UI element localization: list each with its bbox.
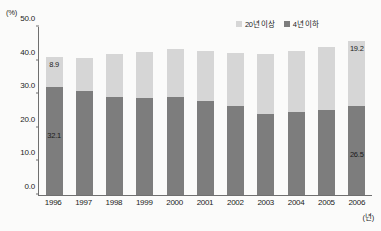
bar-segment-4y-or-less — [227, 106, 244, 195]
bar-segment-20y-or-more — [106, 54, 123, 97]
y-axis-tick-label: 30.0 — [20, 81, 35, 90]
y-axis-tick-label: 0.0 — [24, 182, 35, 191]
bar-segment-20y-or-more — [136, 52, 153, 98]
x-axis-ticks: 1996199719981999200020012002200320042005… — [38, 198, 372, 212]
bar-group — [167, 27, 184, 195]
stacked-bar-chart: (%) 20년 이상4년 이하 0.010.020.030.040.050.0 … — [0, 0, 381, 231]
bar-segment-4y-or-less: 26.5 — [348, 106, 365, 195]
y-axis-tick-label: 50.0 — [20, 14, 35, 23]
x-axis-tick-label: 2006 — [348, 198, 365, 212]
bar-segment-4y-or-less — [106, 97, 123, 195]
x-axis-tick-label: 1998 — [105, 198, 122, 212]
bar-segment-4y-or-less: 32.1 — [46, 87, 63, 195]
bar-group — [288, 27, 305, 195]
bar-group — [76, 27, 93, 195]
bar-group: 19.226.5 — [348, 27, 365, 195]
bar-value-label: 32.1 — [47, 131, 61, 140]
bar-group — [227, 27, 244, 195]
bar-segment-20y-or-more — [227, 53, 244, 106]
bar-segment-20y-or-more — [197, 51, 214, 102]
bar-group — [257, 27, 274, 195]
plot-area: 0.010.020.030.040.050.0 8.932.119.226.5 — [38, 27, 372, 196]
bar-segment-4y-or-less — [76, 91, 93, 195]
bar-segment-4y-or-less — [318, 110, 335, 195]
bar-segment-20y-or-more: 19.2 — [348, 41, 365, 106]
x-axis-tick-label: 2005 — [318, 198, 335, 212]
bar-group — [106, 27, 123, 195]
bar-segment-4y-or-less — [167, 97, 184, 195]
bar-value-label: 19.2 — [350, 44, 364, 53]
x-axis-tick-label: 2001 — [196, 198, 213, 212]
x-axis-tick-label: 1999 — [136, 198, 153, 212]
x-axis-tick-label: 1997 — [75, 198, 92, 212]
bar-group — [136, 27, 153, 195]
x-axis-unit-label: (년) — [363, 211, 374, 222]
bar-segment-4y-or-less — [197, 101, 214, 195]
x-axis-tick-label: 2000 — [166, 198, 183, 212]
x-axis-tick-label: 1996 — [45, 198, 62, 212]
bar-segment-20y-or-more — [288, 51, 305, 112]
legend-swatch-light — [236, 21, 242, 27]
bar-segment-20y-or-more — [76, 58, 93, 91]
x-axis-tick-label: 2004 — [288, 198, 305, 212]
y-axis-tick-label: 40.0 — [20, 47, 35, 56]
bar-group — [197, 27, 214, 195]
bar-segment-4y-or-less — [288, 112, 305, 195]
bar-series-container: 8.932.119.226.5 — [39, 27, 372, 195]
bar-segment-20y-or-more — [257, 54, 274, 114]
bar-segment-20y-or-more — [318, 47, 335, 109]
legend-swatch-dark — [284, 21, 290, 27]
bar-segment-4y-or-less — [136, 98, 153, 195]
x-axis-tick-label: 2003 — [257, 198, 274, 212]
bar-segment-20y-or-more: 8.9 — [46, 57, 63, 87]
bar-group: 8.932.1 — [46, 27, 63, 195]
x-axis-tick-label: 2002 — [227, 198, 244, 212]
bar-segment-4y-or-less — [257, 114, 274, 195]
bar-value-label: 26.5 — [350, 150, 364, 159]
y-axis-tick-label: 20.0 — [20, 114, 35, 123]
y-axis-unit-label: (%) — [6, 8, 17, 17]
bar-group — [318, 27, 335, 195]
bar-segment-20y-or-more — [167, 49, 184, 97]
y-axis-tick-label: 10.0 — [20, 148, 35, 157]
bar-value-label: 8.9 — [49, 60, 59, 69]
